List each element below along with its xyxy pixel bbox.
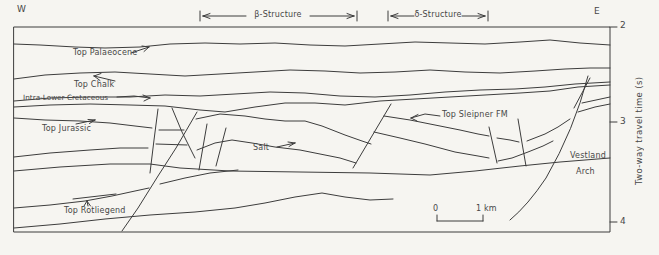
scale-bar-zero-label: 0 (433, 204, 438, 213)
horizon-base-salt (14, 140, 356, 163)
top-palaeocene-label: Top Palaeocene (73, 48, 137, 57)
central-fault (353, 104, 391, 168)
east-label: E (594, 6, 600, 16)
top-jurassic-label: Top Jurassic (42, 124, 91, 133)
horizon-top-chalk (14, 68, 610, 79)
twt-tick-2: 2 (620, 20, 626, 30)
top-sleipner-fm-label: Top Sleipner FM (442, 110, 508, 119)
horizon-sub-sleipner (374, 132, 553, 161)
section-frame (14, 27, 610, 232)
vestland-arch-fault (510, 76, 590, 220)
west-label: W (17, 4, 26, 14)
horizon-deep-zechstein (14, 158, 610, 175)
twt-axis-ticks (610, 27, 617, 222)
top-rotliegend-label: Top Rotliegend (64, 206, 126, 215)
beta-structure-label: β-Structure (238, 10, 318, 19)
label-leader-arrows (76, 46, 440, 206)
graben-faults (150, 108, 226, 173)
horizon-top-rotliegend (14, 170, 238, 208)
delta-structure-label: δ-Structure (398, 10, 478, 19)
scale-bar (437, 215, 483, 221)
intra-lower-cretaceous-label: Intra-Lower Cretaceous (23, 93, 108, 102)
twt-tick-4: 4 (620, 216, 626, 226)
vestland-arch-label-line1: Vestland (570, 151, 606, 160)
top-chalk-label: Top Chalk (74, 80, 114, 89)
vestland-arch-label-line2: Arch (576, 167, 595, 176)
twt-tick-3: 3 (620, 116, 626, 126)
seismic-cross-section-figure: W E β-Structure δ-Structure Top Palaeoce… (0, 0, 659, 255)
twt-axis-title: Two-way travel time (s) (634, 38, 644, 223)
salt-label: Salt (253, 143, 269, 152)
scale-bar-km-label: 1 km (476, 204, 497, 213)
horizon-top-palaeocene (14, 40, 610, 48)
cross-section-linework (0, 0, 659, 255)
